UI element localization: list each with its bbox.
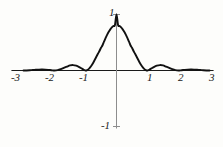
x-tick-label-minus-3: -3 xyxy=(11,72,20,83)
chart-figure: -3 -2 -1 1 2 3 1 -1 xyxy=(0,0,223,147)
y-tick-label-minus-1: -1 xyxy=(101,120,110,131)
x-tick-label-minus-1: -1 xyxy=(79,72,88,83)
y-tick-label-plus-1: 1 xyxy=(109,7,114,18)
x-tick-label-minus-2: -2 xyxy=(45,72,54,83)
x-tick-label-plus-1: 1 xyxy=(147,72,152,83)
x-tick-label-plus-2: 2 xyxy=(178,72,183,83)
sinc-squared-plot xyxy=(0,0,223,147)
x-tick-label-plus-3: 3 xyxy=(209,72,214,83)
